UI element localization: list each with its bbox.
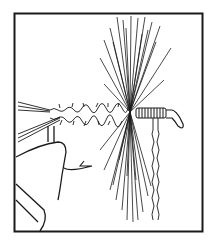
hanging-thread (152, 118, 159, 220)
hook-point (64, 161, 92, 170)
vise-jaw (16, 126, 66, 231)
hook-eye (166, 110, 183, 128)
dubbed-body (50, 103, 128, 127)
fly-tying-illustration (0, 0, 215, 251)
frame-border (15, 14, 203, 232)
hackle-fibers (100, 16, 171, 222)
thread-wraps (136, 108, 166, 118)
